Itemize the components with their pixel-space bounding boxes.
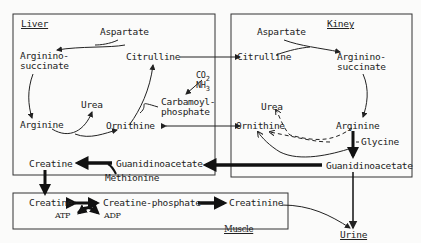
liver-arginine: Arginine [20, 120, 63, 130]
muscle-region-label: Muscle [224, 224, 253, 234]
atp-label: ATP [55, 211, 70, 221]
liver-ornithine: Ornithine [106, 121, 155, 131]
muscle-creatine: Creatine [29, 198, 72, 208]
liver-urea: Urea [81, 100, 103, 110]
kidney-urea: Urea [261, 102, 283, 112]
kidney-argininosuccinate-line2: succinate [337, 62, 386, 72]
liver-box [13, 14, 215, 175]
urine-label: Urine [340, 230, 367, 240]
carbamoyl-phosphate-line2: phosphate [161, 107, 210, 117]
nh3-label: NH3 [196, 80, 210, 94]
kidney-region-label: Kiney [327, 19, 354, 29]
kidney-aspartate: Aspartate [257, 27, 306, 37]
creatine-phosphate-label: Creatine-phosphate [103, 198, 201, 208]
creatinine-label: Creatinine [229, 198, 283, 208]
liver-guanidinoacetate: Guanidinoacetate [116, 159, 203, 169]
kidney-arginine: Arginine [336, 121, 379, 131]
adp-label: ADP [104, 211, 121, 221]
liver-argininosuccinate-line2: succinate [20, 61, 69, 71]
methionine-label: Methionine [105, 173, 159, 183]
liver-creatine: Creatine [29, 159, 72, 169]
liver-region-label: Liver [21, 19, 48, 29]
liver-citrulline: Citrulline [126, 52, 180, 62]
glycine-label: Glycine [361, 137, 399, 147]
kidney-ornithine: Ornithine [236, 121, 285, 131]
kidney-citrulline: Citrulline [237, 52, 291, 62]
kidney-box [231, 14, 412, 177]
kidney-guanidinoacetate: Guanidinoacetate [326, 161, 413, 171]
liver-aspartate: Aspartate [100, 27, 149, 37]
